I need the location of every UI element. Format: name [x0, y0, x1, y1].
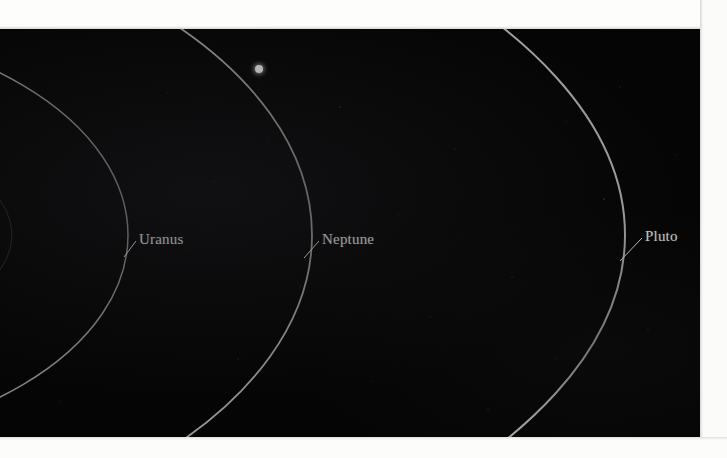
star-point	[91, 146, 92, 147]
star-point	[647, 328, 648, 329]
orbit-label-uranus: Uranus	[139, 232, 184, 247]
inner-orbit-faint	[0, 107, 12, 363]
uranus-orbit	[0, 29, 128, 437]
star-point	[339, 106, 340, 107]
orbit-diagram-plate: Uranus Neptune Pluto	[0, 29, 700, 437]
leader-line-uranus	[124, 241, 136, 257]
star-point	[454, 148, 455, 149]
star-point	[528, 179, 529, 180]
star-point	[167, 93, 168, 94]
star-point	[300, 287, 301, 288]
orbit-label-pluto: Pluto	[645, 229, 678, 244]
star-point	[511, 276, 512, 277]
starfield	[60, 86, 677, 409]
star-point	[566, 121, 567, 122]
leader-lines	[124, 238, 642, 261]
star-point	[60, 401, 61, 402]
leader-line-pluto	[620, 238, 642, 261]
star-point	[556, 359, 557, 360]
star-point	[619, 86, 620, 87]
figure-page: Uranus Neptune Pluto	[0, 0, 727, 458]
star-point	[398, 215, 399, 216]
orbit-paths	[0, 29, 625, 437]
star-point	[268, 139, 269, 140]
page-margin-right	[700, 0, 727, 458]
star-point	[360, 161, 361, 162]
page-margin-top	[0, 0, 727, 29]
star-point	[603, 198, 604, 199]
star-point	[190, 249, 191, 250]
star-point	[213, 180, 214, 181]
star-point	[120, 329, 121, 330]
star-point	[237, 358, 238, 359]
star-point	[372, 381, 373, 382]
star-point	[487, 408, 488, 409]
orbit-label-neptune: Neptune	[322, 232, 374, 247]
page-margin-bottom	[0, 437, 727, 458]
planet-marker-dot	[255, 65, 263, 73]
star-point	[429, 316, 430, 317]
star-point	[676, 155, 677, 156]
